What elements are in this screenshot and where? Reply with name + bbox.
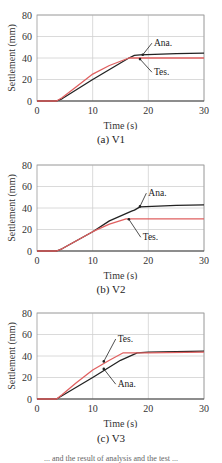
- y-tick-label: 0: [27, 246, 32, 257]
- annotation-label: Tes.: [143, 232, 158, 242]
- arrow-head-icon: [103, 360, 106, 363]
- x-axis-label: Time (s): [104, 418, 138, 428]
- y-tick-label: 0: [27, 394, 32, 405]
- arrow-head-icon: [128, 218, 131, 221]
- y-tick-label: 80: [22, 308, 32, 319]
- y-tick-label: 20: [22, 224, 32, 235]
- annotation-arrow: [104, 369, 116, 384]
- y-tick-label: 20: [22, 74, 32, 85]
- y-tick-label: 40: [22, 351, 32, 362]
- x-axis-label: Time (s): [104, 120, 138, 130]
- y-tick-label: 40: [22, 53, 32, 64]
- x-tick-label: 20: [143, 105, 153, 116]
- series-tes: [37, 219, 204, 251]
- series-ana: [37, 205, 204, 251]
- caption-v1: (a) V1: [0, 133, 222, 145]
- y-axis-label: Settlement (mm): [6, 322, 18, 390]
- x-tick-label: 10: [88, 255, 98, 266]
- x-tick-label: 30: [199, 403, 209, 414]
- x-tick-label: 20: [143, 403, 153, 414]
- x-tick-label: 0: [35, 105, 40, 116]
- x-tick-label: 30: [199, 105, 209, 116]
- y-axis-label: Settlement (mm): [6, 24, 18, 92]
- series-tes: [37, 352, 204, 399]
- y-tick-label: 0: [27, 96, 32, 107]
- annotation-label: Tes.: [118, 334, 133, 344]
- annotation-arrow: [143, 43, 152, 55]
- arrow-head-icon: [139, 205, 142, 208]
- y-tick-label: 80: [22, 160, 32, 171]
- y-tick-label: 80: [22, 10, 32, 21]
- annotation-label: Tes.: [154, 67, 169, 77]
- chart-v3-svg: 0204060800102030Time (s)Settlement (mm)T…: [0, 298, 222, 428]
- annotation-arrow: [140, 59, 152, 72]
- x-tick-label: 0: [35, 403, 40, 414]
- y-tick-label: 60: [22, 31, 32, 42]
- chart-v1: 0204060800102030Time (s)Settlement (mm)A…: [0, 0, 222, 150]
- x-tick-label: 0: [35, 255, 40, 266]
- caption-v3: (c) V3: [0, 432, 222, 444]
- footer-text: ... and the result of analysis and the t…: [0, 454, 222, 463]
- y-tick-label: 60: [22, 181, 32, 192]
- annotation-label: Ana.: [154, 38, 172, 48]
- chart-v1-svg: 0204060800102030Time (s)Settlement (mm)A…: [0, 0, 222, 130]
- x-tick-label: 20: [143, 255, 153, 266]
- y-tick-label: 40: [22, 203, 32, 214]
- y-tick-label: 60: [22, 329, 32, 340]
- annotation-label: Ana.: [148, 188, 166, 198]
- y-tick-label: 20: [22, 372, 32, 383]
- series-ana: [37, 53, 204, 101]
- chart-v2-svg: 0204060800102030Time (s)Settlement (mm)A…: [0, 150, 222, 280]
- annotation-arrow: [140, 193, 146, 206]
- arrow-head-icon: [141, 53, 144, 56]
- x-tick-label: 10: [88, 403, 98, 414]
- x-tick-label: 10: [88, 105, 98, 116]
- chart-v2: 0204060800102030Time (s)Settlement (mm)A…: [0, 150, 222, 300]
- annotation-label: Ana.: [118, 379, 136, 389]
- arrow-head-icon: [103, 368, 106, 371]
- caption-v2: (b) V2: [0, 283, 222, 295]
- series-ana: [37, 351, 204, 399]
- x-axis-label: Time (s): [104, 270, 138, 280]
- arrow-head-icon: [139, 58, 142, 61]
- annotation-arrow: [129, 219, 141, 237]
- chart-v3: 0204060800102030Time (s)Settlement (mm)T…: [0, 298, 222, 448]
- y-axis-label: Settlement (mm): [6, 174, 18, 242]
- x-tick-label: 30: [199, 255, 209, 266]
